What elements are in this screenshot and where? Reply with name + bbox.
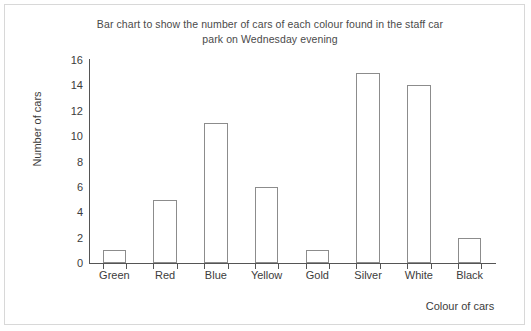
y-axis-tick-label: 8 xyxy=(53,156,83,168)
y-axis-tick-label: 2 xyxy=(53,232,83,244)
x-axis-tick-labels: GreenRedBlueYellowGoldSilverWhiteBlack xyxy=(89,269,496,287)
chart-title: Bar chart to show the number of cars of … xyxy=(60,17,480,47)
x-axis-title: Colour of cars xyxy=(395,300,525,312)
x-axis-tick-label: Red xyxy=(155,269,175,281)
y-axis-tick-label: 6 xyxy=(53,181,83,193)
bar xyxy=(306,250,329,263)
bar xyxy=(458,238,481,263)
bar xyxy=(103,250,126,263)
x-axis-tick-label: White xyxy=(405,269,433,281)
x-axis-tick-label: Blue xyxy=(205,269,227,281)
x-axis-tick-label: Black xyxy=(456,269,483,281)
y-axis-tick-label: 14 xyxy=(53,79,83,91)
bar xyxy=(356,73,379,263)
x-axis-tick-label: Gold xyxy=(306,269,329,281)
y-axis-tick-label: 0 xyxy=(53,257,83,269)
y-axis-title: Number of cars xyxy=(31,79,43,179)
bar xyxy=(204,123,227,263)
bar xyxy=(407,85,430,263)
y-axis-tick-labels: 0246810121416 xyxy=(49,60,83,263)
x-axis-tick-label: Silver xyxy=(354,269,382,281)
y-axis-tick-label: 10 xyxy=(53,130,83,142)
y-axis-tick-label: 12 xyxy=(53,105,83,117)
chart-title-line-1: Bar chart to show the number of cars of … xyxy=(60,17,480,32)
plot-area xyxy=(89,60,495,263)
bar xyxy=(153,200,176,263)
chart-frame: Bar chart to show the number of cars of … xyxy=(4,4,525,325)
chart-title-line-2: park on Wednesday evening xyxy=(60,32,480,47)
bar xyxy=(255,187,278,263)
x-axis-tick-label: Yellow xyxy=(251,269,282,281)
y-axis-tick-label: 4 xyxy=(53,206,83,218)
x-axis-tick-label: Green xyxy=(99,269,130,281)
y-axis-tick-label: 16 xyxy=(53,54,83,66)
